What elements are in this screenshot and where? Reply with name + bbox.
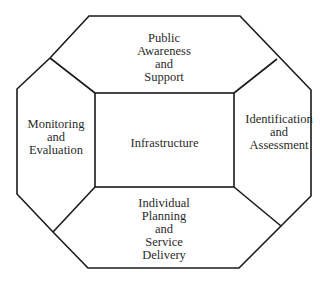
top-segment-label: PublicAwarenessandSupport bbox=[114, 32, 214, 84]
connector-bottom-left bbox=[53, 187, 95, 232]
bottom-segment-label: IndividualPlanningandServiceDelivery bbox=[114, 197, 214, 262]
right-segment-label: IdentificationandAssessment bbox=[236, 113, 322, 152]
connector-top-left bbox=[50, 58, 95, 93]
connector-top-right bbox=[234, 59, 277, 93]
label-line: Assessment bbox=[236, 139, 322, 152]
center-label: Infrastructure bbox=[95, 137, 234, 150]
left-segment-label: MonitoringandEvaluation bbox=[18, 118, 94, 157]
connector-bottom-right bbox=[234, 187, 281, 226]
label-line: Support bbox=[114, 71, 214, 84]
label-line: Evaluation bbox=[18, 144, 94, 157]
label-line: Infrastructure bbox=[95, 137, 234, 150]
label-line: Delivery bbox=[114, 249, 214, 262]
